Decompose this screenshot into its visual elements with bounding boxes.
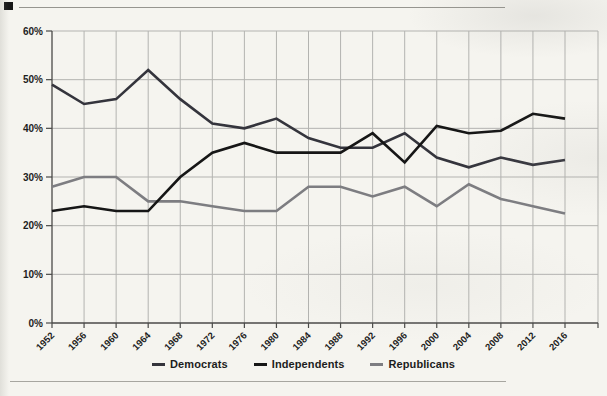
x-tick-label: 1960	[98, 330, 121, 353]
bottom-rule	[10, 381, 506, 382]
x-tick-label: 1952	[34, 330, 57, 353]
x-tick-label: 2000	[418, 330, 441, 353]
y-tick-label: 10%	[23, 269, 43, 280]
party-identification-line-chart: 0%10%20%30%40%50%60%19521956196019641968…	[0, 0, 607, 396]
democrats-line-swatch-icon	[152, 363, 165, 366]
legend-label-democrats: Democrats	[170, 358, 228, 370]
legend-item-republicans: Republicans	[370, 358, 455, 370]
x-tick-label: 1988	[322, 330, 345, 353]
legend-item-democrats: Democrats	[152, 358, 228, 370]
y-tick-label: 20%	[23, 220, 43, 231]
x-tick-label: 1968	[162, 330, 185, 353]
scanned-page: 0%10%20%30%40%50%60%19521956196019641968…	[0, 0, 607, 396]
x-tick-label: 1964	[130, 329, 153, 352]
x-tick-label: 1956	[66, 330, 89, 353]
x-tick-label: 1984	[290, 329, 313, 352]
legend-label-independents: Independents	[272, 358, 345, 370]
x-tick-label: 1996	[386, 330, 409, 353]
top-rule	[19, 7, 505, 8]
independents-line-swatch-icon	[254, 363, 267, 366]
y-tick-label: 30%	[23, 172, 43, 183]
x-tick-label: 1976	[226, 330, 249, 353]
x-tick-label: 1980	[258, 330, 281, 353]
y-tick-label: 60%	[23, 26, 43, 37]
x-tick-label: 1992	[354, 330, 377, 353]
legend-item-independents: Independents	[254, 358, 345, 370]
y-tick-label: 40%	[23, 123, 43, 134]
page-corner-marker	[4, 2, 13, 10]
x-tick-label: 2016	[547, 330, 570, 353]
x-tick-label: 2008	[483, 330, 506, 353]
y-tick-label: 50%	[23, 74, 43, 85]
y-tick-label: 0%	[29, 318, 44, 329]
chart-legend: Democrats Independents Republicans	[0, 358, 607, 370]
x-tick-label: 2004	[450, 329, 473, 352]
x-tick-label: 2012	[515, 330, 538, 353]
legend-label-republicans: Republicans	[388, 358, 455, 370]
republicans-line-swatch-icon	[370, 363, 383, 366]
x-tick-label: 1972	[194, 330, 217, 353]
